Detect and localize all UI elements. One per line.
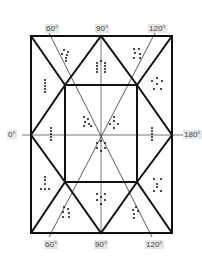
label-bottom-120: 120°	[145, 240, 164, 249]
dots-left-mid	[50, 127, 52, 141]
label-right-180: 180°	[183, 130, 202, 139]
label-bottom-90: 90°	[94, 240, 108, 249]
label-bottom-60: 60°	[44, 240, 58, 249]
label-top-120: 120°	[148, 24, 167, 33]
dots-center-left	[83, 116, 92, 127]
dots-bottom-left	[62, 206, 70, 218]
dots-bottom-right	[132, 206, 139, 219]
dots-left-upper	[44, 79, 46, 93]
dots-top-right	[133, 48, 141, 59]
dots-right-upper	[151, 77, 163, 90]
dots-right-lower	[153, 178, 162, 192]
label-top-90: 90°	[95, 24, 109, 33]
label-top-60: 60°	[45, 24, 59, 33]
label-left-0: 0°	[7, 130, 17, 139]
dots-left-lower	[40, 176, 50, 190]
dots-right-mid	[151, 127, 153, 141]
dots-top-left	[61, 49, 69, 62]
angle-diagram	[0, 0, 202, 256]
